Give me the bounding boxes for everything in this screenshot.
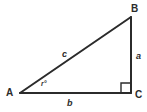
triangle-side-c-hypotenuse bbox=[20, 17, 131, 93]
side-label-b: b bbox=[67, 99, 73, 108]
vertex-label-c: C bbox=[135, 90, 142, 100]
side-label-c: c bbox=[62, 50, 67, 59]
angle-label-a: r° bbox=[41, 80, 47, 87]
right-triangle-diagram: A B C a b c r° bbox=[0, 0, 147, 112]
triangle-figure bbox=[0, 0, 147, 112]
side-label-a: a bbox=[136, 52, 141, 61]
vertex-label-a: A bbox=[6, 88, 13, 98]
right-angle-marker-icon bbox=[121, 83, 131, 93]
vertex-label-b: B bbox=[131, 4, 138, 14]
